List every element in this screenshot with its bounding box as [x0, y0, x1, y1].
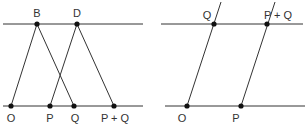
left-segment-b-q: [37, 24, 74, 106]
left-point-d: [74, 21, 79, 26]
left-point-b: [34, 21, 39, 26]
left-point-p: [47, 103, 52, 108]
left-label-o: O: [7, 112, 16, 124]
elliptic-addition-diagram: BDOPQP + QQP + QOP: [0, 0, 305, 132]
left-label-pq: P + Q: [101, 112, 130, 124]
left-point-o: [8, 103, 13, 108]
left-label-d: D: [73, 7, 81, 19]
left-point-pq: [111, 103, 116, 108]
right-point-o: [184, 103, 189, 108]
left-segment-d-pq: [77, 24, 114, 106]
right-label-q: Q: [203, 9, 212, 21]
left-segment-p-d: [50, 24, 77, 106]
right-label-p: P: [232, 112, 239, 124]
left-point-q: [71, 103, 76, 108]
right-label-pq: P + Q: [264, 9, 293, 21]
left-label-q: Q: [71, 112, 80, 124]
left-label-p: P: [46, 112, 53, 124]
left-label-b: B: [33, 7, 40, 19]
right-point-q: [211, 21, 216, 26]
right-label-o: O: [178, 112, 187, 124]
right-point-p: [238, 103, 243, 108]
right-point-pq: [264, 21, 269, 26]
left-segment-o-b: [11, 24, 37, 106]
